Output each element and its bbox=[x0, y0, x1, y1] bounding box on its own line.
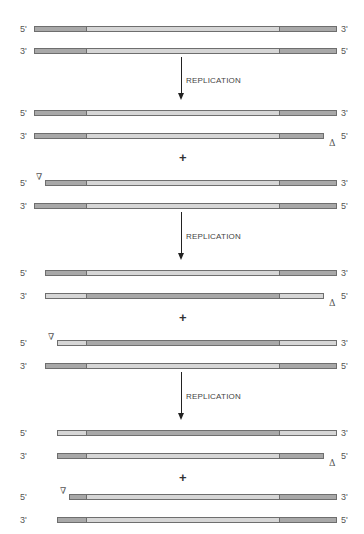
delta-marker: Δ bbox=[329, 298, 336, 308]
strand-right-end-label: 3' bbox=[341, 338, 348, 348]
strand-segment-middle bbox=[86, 134, 280, 138]
strand-segment-left bbox=[58, 454, 86, 458]
strand-segment-right bbox=[279, 271, 336, 275]
strand-right-end-label: 5' bbox=[341, 515, 348, 525]
strand-right-end-label: 3' bbox=[341, 268, 348, 278]
strand-left-end-label: 5' bbox=[20, 492, 27, 502]
strand-right-end-label: 3' bbox=[341, 428, 348, 438]
plus-sign: + bbox=[179, 471, 187, 484]
strand-right-end-label: 5' bbox=[341, 131, 348, 141]
strand-segment-left bbox=[46, 294, 86, 298]
strand-right-end-label: 3' bbox=[341, 178, 348, 188]
strand-segment-right bbox=[279, 518, 336, 522]
strand-segment-right bbox=[279, 204, 336, 208]
strand-segment-middle bbox=[86, 341, 280, 345]
dna-strand bbox=[34, 110, 337, 116]
strand-segment-right bbox=[279, 111, 336, 115]
strand-segment-left bbox=[35, 204, 86, 208]
dna-strand bbox=[57, 453, 324, 459]
strand-right-end-label: 5' bbox=[341, 361, 348, 371]
replication-arrow-line bbox=[181, 57, 182, 94]
strand-segment-middle bbox=[86, 181, 280, 185]
strand-right-end-label: 3' bbox=[341, 492, 348, 502]
strand-segment-right bbox=[279, 454, 323, 458]
strand-left-end-label: 3' bbox=[20, 46, 27, 56]
strand-right-end-label: 3' bbox=[341, 108, 348, 118]
delta-marker: Δ bbox=[329, 458, 336, 468]
strand-segment-right bbox=[279, 495, 336, 499]
strand-segment-left bbox=[46, 181, 86, 185]
strand-segment-right bbox=[279, 364, 336, 368]
strand-segment-middle bbox=[86, 27, 280, 31]
strand-left-end-label: 3' bbox=[20, 131, 27, 141]
plus-sign: + bbox=[179, 151, 187, 164]
strand-segment-right bbox=[279, 134, 323, 138]
replication-arrow-line bbox=[181, 212, 182, 254]
strand-left-end-label: 5' bbox=[20, 338, 27, 348]
strand-segment-right bbox=[279, 341, 336, 345]
strand-left-end-label: 3' bbox=[20, 201, 27, 211]
arrow-down-icon bbox=[178, 253, 184, 260]
strand-segment-left bbox=[46, 364, 86, 368]
strand-segment-left bbox=[58, 431, 86, 435]
strand-left-end-label: 5' bbox=[20, 178, 27, 188]
strand-segment-middle bbox=[86, 454, 280, 458]
delta-marker: Δ bbox=[329, 138, 336, 148]
strand-segment-right bbox=[279, 431, 336, 435]
strand-segment-right bbox=[279, 181, 336, 185]
strand-segment-left bbox=[58, 341, 86, 345]
dna-strand bbox=[45, 293, 324, 299]
strand-segment-left bbox=[35, 49, 86, 53]
strand-right-end-label: 5' bbox=[341, 201, 348, 211]
strand-left-end-label: 5' bbox=[20, 24, 27, 34]
dna-strand bbox=[57, 430, 337, 436]
strand-left-end-label: 3' bbox=[20, 291, 27, 301]
replication-label: REPLICATION bbox=[186, 232, 241, 241]
strand-segment-right bbox=[279, 294, 323, 298]
nabla-marker: ∇ bbox=[60, 486, 66, 496]
arrow-down-icon bbox=[178, 93, 184, 100]
dna-strand bbox=[45, 363, 337, 369]
arrow-down-icon bbox=[178, 413, 184, 420]
strand-segment-left bbox=[35, 134, 86, 138]
replication-arrow-line bbox=[181, 372, 182, 414]
strand-segment-middle bbox=[86, 518, 280, 522]
strand-left-end-label: 3' bbox=[20, 451, 27, 461]
strand-segment-middle bbox=[86, 364, 280, 368]
dna-strand bbox=[34, 203, 337, 209]
strand-left-end-label: 3' bbox=[20, 515, 27, 525]
strand-left-end-label: 5' bbox=[20, 108, 27, 118]
strand-segment-left bbox=[46, 271, 86, 275]
strand-right-end-label: 5' bbox=[341, 451, 348, 461]
dna-strand bbox=[34, 26, 337, 32]
strand-right-end-label: 5' bbox=[341, 291, 348, 301]
dna-strand bbox=[45, 180, 337, 186]
strand-segment-middle bbox=[86, 495, 280, 499]
strand-right-end-label: 5' bbox=[341, 46, 348, 56]
strand-segment-middle bbox=[86, 111, 280, 115]
plus-sign: + bbox=[179, 311, 187, 324]
strand-segment-middle bbox=[86, 271, 280, 275]
strand-segment-middle bbox=[86, 431, 280, 435]
replication-label: REPLICATION bbox=[186, 392, 241, 401]
strand-segment-left bbox=[35, 27, 86, 31]
strand-segment-right bbox=[279, 27, 336, 31]
strand-right-end-label: 3' bbox=[341, 24, 348, 34]
strand-segment-left bbox=[70, 495, 86, 499]
strand-left-end-label: 5' bbox=[20, 268, 27, 278]
strand-left-end-label: 5' bbox=[20, 428, 27, 438]
dna-strand bbox=[57, 517, 337, 523]
strand-segment-middle bbox=[86, 204, 280, 208]
strand-segment-middle bbox=[86, 49, 280, 53]
dna-strand bbox=[69, 494, 337, 500]
strand-segment-middle bbox=[86, 294, 280, 298]
strand-segment-left bbox=[58, 518, 86, 522]
dna-strand bbox=[34, 133, 324, 139]
dna-strand bbox=[34, 48, 337, 54]
strand-segment-left bbox=[35, 111, 86, 115]
dna-strand bbox=[57, 340, 337, 346]
replication-label: REPLICATION bbox=[186, 76, 241, 85]
dna-replication-diagram: 5'3'3'5'5'3'3'5'Δ5'3'∇3'5'5'3'3'5'Δ5'3'∇… bbox=[0, 0, 364, 534]
nabla-marker: ∇ bbox=[48, 332, 54, 342]
dna-strand bbox=[45, 270, 337, 276]
